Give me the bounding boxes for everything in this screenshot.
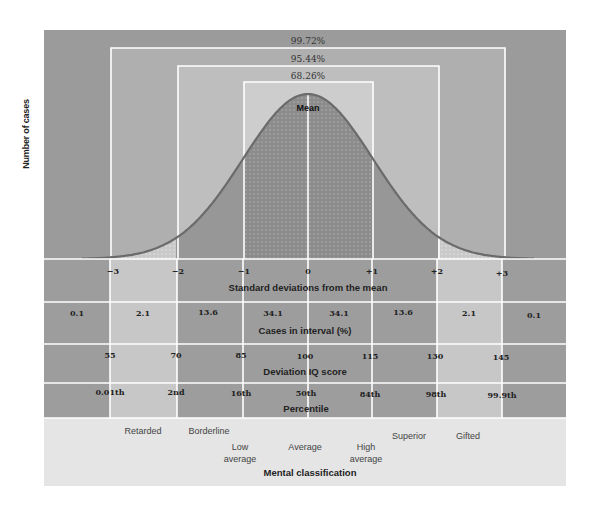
- iq-value: 100: [297, 351, 314, 361]
- iq-row-title: Deviation IQ score: [263, 366, 346, 377]
- class-label: Superior: [392, 430, 426, 442]
- percentile-value: 99.9th: [488, 390, 517, 400]
- percentile-row-title: Percentile: [283, 403, 328, 414]
- sd-tick: 0: [305, 266, 311, 276]
- iq-value: 85: [235, 350, 246, 360]
- cases-value: 34.1: [263, 308, 282, 318]
- class-label: Retarded: [124, 425, 161, 437]
- sd-tick: −1: [238, 266, 250, 276]
- bracket-label-99: 99.72%: [291, 36, 325, 46]
- y-axis-label: Number of cases: [21, 99, 31, 169]
- class-label: Borderline: [188, 425, 229, 437]
- sd-row-title: Standard deviations from the mean: [229, 282, 388, 293]
- sd-tick: −2: [172, 266, 184, 276]
- iq-value: 55: [104, 350, 115, 360]
- iq-value: 115: [362, 351, 379, 361]
- class-label: Low average: [224, 441, 257, 465]
- class-label: Gifted: [456, 430, 480, 442]
- percentile-value: 16th: [231, 388, 252, 398]
- cases-value: 0.1: [70, 308, 84, 318]
- class-label: Average: [288, 441, 321, 453]
- cases-value: 0.1: [527, 310, 541, 320]
- cases-value: 13.6: [393, 307, 412, 317]
- sd-tick: +3: [496, 268, 508, 278]
- percentile-value: 2nd: [168, 387, 185, 397]
- class-row-title: Mental classification: [264, 467, 357, 478]
- cases-value: 2.1: [136, 308, 150, 318]
- sd-tick: −3: [107, 266, 119, 276]
- bracket-label-95: 95.44%: [291, 54, 325, 64]
- cases-value: 13.6: [198, 307, 217, 317]
- cases-value: 2.1: [462, 308, 476, 318]
- percentile-value: 98th: [426, 389, 447, 399]
- iq-value: 70: [170, 350, 181, 360]
- iq-value: 145: [493, 352, 510, 362]
- percentile-value: 84th: [360, 389, 381, 399]
- class-label: High average: [350, 441, 383, 465]
- mean-label: Mean: [296, 103, 319, 113]
- cases-row-title: Cases in interval (%): [259, 325, 352, 336]
- iq-normal-distribution-figure: Number of cases 99.72% 95.44% 68.26% Mea…: [0, 0, 593, 507]
- sd-tick: +2: [431, 266, 443, 276]
- bracket-label-68: 68.26%: [291, 71, 325, 81]
- cases-value: 34.1: [329, 308, 348, 318]
- iq-value: 130: [427, 351, 444, 361]
- percentile-value: 50th: [296, 388, 317, 398]
- percentile-value: 0.01th: [96, 387, 125, 397]
- sd-tick: +1: [366, 266, 378, 276]
